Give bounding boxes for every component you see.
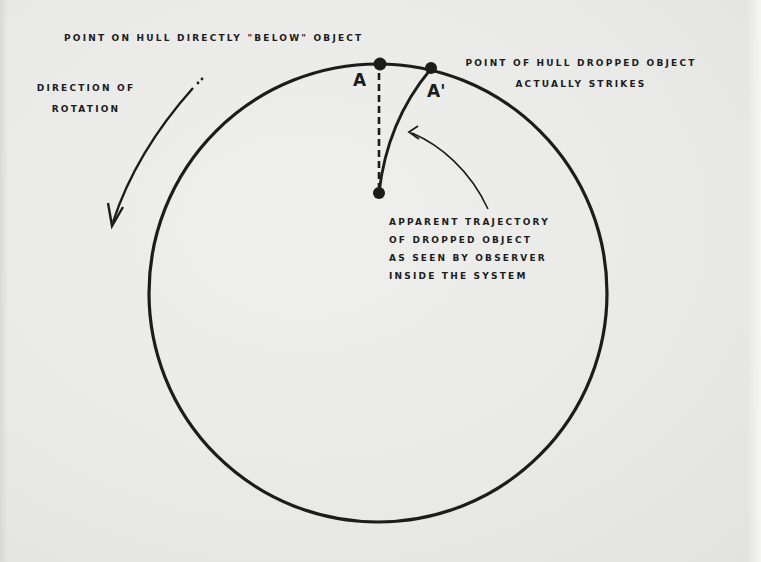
label-trajectory-line2: OF DROPPED OBJECT xyxy=(389,236,532,245)
label-direction-line2: ROTATION xyxy=(22,105,150,114)
point-a-prime-dot xyxy=(425,62,437,74)
label-trajectory-line3: AS SEEN BY OBSERVER xyxy=(389,254,547,263)
curved-apparent-trajectory xyxy=(379,70,430,193)
label-point-below-object: POINT ON HULL DIRECTLY "BELOW" OBJECT xyxy=(64,34,363,43)
label-strike-point-line2: ACTUALLY STRIKES xyxy=(450,80,712,89)
point-a-label: A xyxy=(353,72,366,89)
trajectory-pointer-shaft xyxy=(412,133,488,209)
rotation-arrow-dot xyxy=(201,78,204,81)
point-a-prime-label: A' xyxy=(427,83,445,100)
drop-start-dot xyxy=(373,187,385,199)
label-trajectory-line1: APPARENT TRAJECTORY xyxy=(389,218,550,227)
rotation-arrow-dot xyxy=(197,82,200,85)
label-direction-line1: DIRECTION OF xyxy=(22,84,150,93)
point-a-dot xyxy=(374,58,387,71)
trajectory-pointer-head xyxy=(409,126,419,139)
label-trajectory-line4: INSIDE THE SYSTEM xyxy=(389,272,528,281)
label-strike-point-line1: POINT OF HULL DROPPED OBJECT xyxy=(450,59,712,68)
